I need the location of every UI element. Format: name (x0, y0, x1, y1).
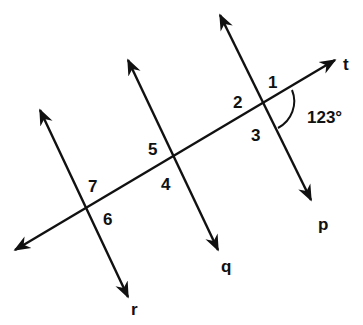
angle-label-3: 3 (251, 126, 260, 145)
diagram-canvas: t p q r 1 2 3 4 5 6 7 123° (0, 0, 363, 325)
angle-label-5: 5 (148, 140, 157, 159)
angle-label-2: 2 (233, 93, 242, 112)
angle-label-1: 1 (268, 73, 277, 92)
given-angle-label: 123° (307, 108, 342, 127)
angle-label-4: 4 (161, 175, 171, 194)
angle-label-7: 7 (88, 177, 97, 196)
line-t (15, 60, 335, 250)
label-p: p (318, 215, 328, 234)
angle-label-6: 6 (103, 210, 112, 229)
line-q (128, 60, 218, 250)
angle-arc-123 (278, 90, 294, 128)
label-t: t (343, 55, 349, 74)
label-r: r (131, 300, 138, 319)
line-r (40, 110, 128, 297)
label-q: q (221, 257, 231, 276)
